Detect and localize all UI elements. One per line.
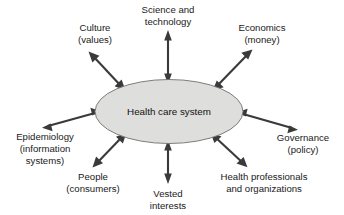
connector-vested-interests bbox=[164, 140, 172, 184]
node-line-2: (consumers) bbox=[66, 183, 119, 194]
connector-economics bbox=[213, 50, 253, 91]
node-line-1: People bbox=[78, 171, 108, 182]
node-line-1: Epidemiology bbox=[16, 131, 74, 142]
health-care-system-influences-diagram: Health care system Science and technolog… bbox=[0, 0, 344, 215]
node-label-epidemiology: Epidemiology (information systems) bbox=[16, 131, 74, 166]
node-line-1: Governance bbox=[277, 132, 329, 143]
node-line-1: Vested bbox=[153, 188, 182, 199]
node-line-2: and organizations bbox=[226, 183, 302, 194]
diagram-canvas: Health care system Science and technolog… bbox=[0, 0, 344, 215]
node-label-people: People (consumers) bbox=[66, 171, 119, 194]
node-line-2: (information bbox=[20, 143, 71, 154]
node-line-3: systems) bbox=[26, 155, 64, 166]
hub-label: Health care system bbox=[127, 106, 211, 117]
node-line-2: technology bbox=[145, 16, 192, 27]
connector-science-and-technology bbox=[164, 30, 172, 84]
node-line-1: Health professionals bbox=[221, 171, 308, 182]
node-line-2: (policy) bbox=[288, 144, 319, 155]
node-line-2: (money) bbox=[244, 34, 279, 45]
node-label-vested-interests: Vested interests bbox=[150, 188, 186, 211]
node-line-1: Culture bbox=[80, 22, 111, 33]
node-label-governance: Governance (policy) bbox=[277, 132, 329, 155]
node-line-2: (values) bbox=[78, 34, 112, 45]
node-line-1: Economics bbox=[239, 22, 286, 33]
connector-health-professionals-and-organizations bbox=[211, 133, 248, 167]
node-line-1: Science and bbox=[142, 4, 195, 15]
connector-people bbox=[93, 133, 127, 168]
connector-governance bbox=[237, 109, 298, 133]
node-label-science-and-technology: Science and technology bbox=[142, 4, 195, 27]
node-line-2: interests bbox=[150, 200, 186, 211]
connector-culture bbox=[89, 52, 126, 91]
node-label-health-professionals-and-organizations: Health professionals and organizations bbox=[221, 171, 308, 194]
node-label-culture: Culture (values) bbox=[78, 22, 112, 45]
connector-epidemiology bbox=[42, 108, 101, 131]
node-label-economics: Economics (money) bbox=[239, 22, 286, 45]
